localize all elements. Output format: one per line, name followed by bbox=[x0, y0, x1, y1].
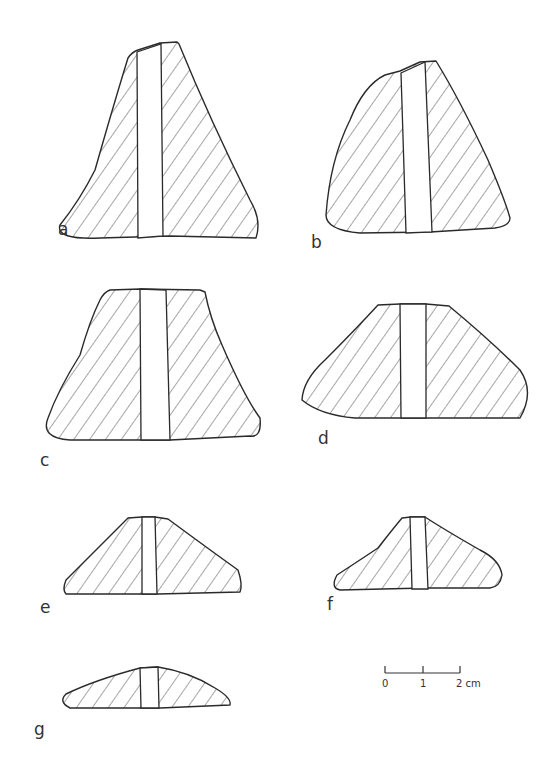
label-d: d bbox=[318, 428, 329, 448]
section-f: f bbox=[327, 517, 502, 614]
label-f: f bbox=[327, 594, 334, 614]
label-g: g bbox=[34, 719, 45, 739]
section-d: d bbox=[302, 304, 528, 448]
section-a: a bbox=[58, 42, 258, 239]
section-e: e bbox=[40, 517, 241, 617]
section-b: b bbox=[311, 61, 510, 252]
section-g: g bbox=[34, 667, 230, 739]
scale-label-2cm: 2 cm bbox=[456, 678, 481, 689]
label-c: c bbox=[40, 450, 49, 470]
scale-label-1: 1 bbox=[420, 678, 426, 689]
label-a: a bbox=[58, 219, 68, 239]
scale-bar: 0 1 2 cm bbox=[382, 666, 481, 689]
label-e: e bbox=[40, 597, 50, 617]
artefact-section-drawings: a b c d e f g 0 1 bbox=[0, 0, 559, 769]
label-b: b bbox=[311, 232, 322, 252]
scale-label-0: 0 bbox=[382, 678, 388, 689]
section-c: c bbox=[40, 289, 260, 470]
